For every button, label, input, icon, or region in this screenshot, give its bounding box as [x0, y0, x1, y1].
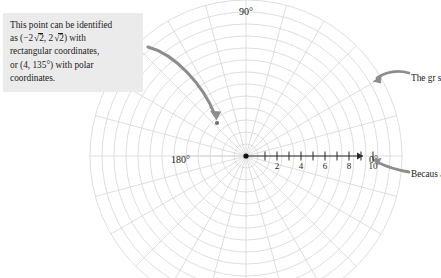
radial-tick-label-4: 4	[299, 161, 304, 171]
note-line-1: This point can be identified	[10, 19, 136, 32]
sqrt-icon-2: √2	[53, 32, 64, 45]
note-radicand-2: 2	[59, 33, 64, 43]
radial-tick-label-6: 6	[323, 161, 328, 171]
angle-label-180: 180°	[171, 154, 190, 165]
sqrt-icon-1: √2	[33, 32, 44, 45]
callout-arrow-to-point	[148, 47, 221, 121]
note-line-2-suffix: ) with	[64, 33, 86, 43]
radial-tick-label-2: 2	[275, 161, 280, 171]
radial-tick-label-8: 8	[347, 161, 352, 171]
pole-origin-dot	[243, 153, 248, 158]
plotted-point	[215, 121, 219, 125]
annotation-right-top: The gr shows divide	[411, 72, 441, 85]
annotation-right-bottom: Becaus always horizo paper that is	[411, 168, 441, 181]
axis-arrowhead	[357, 153, 363, 160]
right-top-line-1: The gr	[411, 73, 436, 83]
right-bottom-line-1: Becaus	[411, 169, 438, 179]
note-line-2: as (−2√2, 2√2) with	[10, 32, 136, 45]
note-middle: , 2	[44, 33, 53, 43]
note-line-5: coordinates.	[10, 72, 136, 85]
note-line-4: or (4, 135°) with polar	[10, 59, 136, 72]
note-radicand-1: 2	[39, 33, 44, 43]
radial-tick-label-10: 10	[369, 161, 378, 171]
polar-chart-figure: 90° 180° 0° 2 4 6 8 10 This point can be…	[0, 0, 441, 278]
angle-label-90: 90°	[239, 6, 253, 17]
note-line-3: rectangular coordinates,	[10, 45, 136, 58]
polar-axis	[246, 153, 363, 160]
note-line-2-prefix: as (	[10, 33, 23, 43]
annotation-note-box: This point can be identified as (−2√2, 2…	[3, 13, 143, 92]
